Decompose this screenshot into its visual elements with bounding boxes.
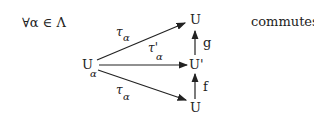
label-middle-tau-prime-subscript: α [156,52,163,62]
label-f: f [203,80,208,93]
node-middle: U' [189,58,204,71]
label-g: g [203,36,211,49]
node-top: U [190,13,201,26]
label-top-tau: τ [116,26,123,38]
arrow-top-tau [97,23,185,60]
label-bottom-tau: τ [116,84,123,96]
node-source-subscript: α [90,69,97,79]
label-top-tau-subscript: α [123,33,130,43]
node-bottom: U [190,101,201,114]
arrow-bottom-tau [98,70,186,100]
label-bottom-tau-subscript: α [123,92,130,102]
